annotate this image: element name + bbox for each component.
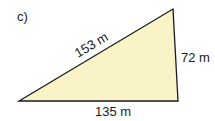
vertical-side-label: 72 m	[181, 50, 210, 65]
triangle-shape	[19, 9, 178, 101]
base-label: 135 m	[95, 104, 131, 119]
triangle-diagram: c) 153 m 72 m 135 m	[0, 0, 215, 121]
part-label: c)	[17, 9, 28, 24]
